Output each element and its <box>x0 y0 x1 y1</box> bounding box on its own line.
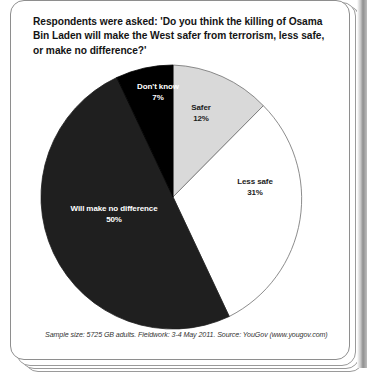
pie-label-dont-know-value: 7% <box>116 93 200 104</box>
pie-label-safer-text: Safer <box>191 103 211 112</box>
source-footnote: Sample size: 5725 GB adults. Fieldwork: … <box>45 331 341 339</box>
pie-label-safer-value: 12% <box>171 114 231 125</box>
pie-label-less-safe-text: Less safe <box>237 177 273 186</box>
pie-label-less-safe-value: 31% <box>209 188 301 199</box>
chart-card-inner: Respondents were asked: 'Do you think th… <box>11 1 349 359</box>
page-edge-strip <box>357 0 367 368</box>
pie-label-dont-know: Don't know 7% <box>116 82 200 103</box>
pie-label-less-safe: Less safe 31% <box>209 177 301 198</box>
pie-label-no-difference-value: 50% <box>39 215 189 226</box>
pie-label-dont-know-text: Don't know <box>137 82 179 91</box>
pie-label-no-difference: Will make no difference 50% <box>39 204 189 225</box>
pie-label-safer: Safer 12% <box>171 103 231 124</box>
pie-label-no-difference-text: Will make no difference <box>71 204 158 213</box>
pie-chart: Don't know 7% Safer 12% Less safe 31% Wi… <box>11 56 349 331</box>
question-heading: Respondents were asked: 'Do you think th… <box>33 15 325 58</box>
chart-card: Respondents were asked: 'Do you think th… <box>10 0 350 360</box>
